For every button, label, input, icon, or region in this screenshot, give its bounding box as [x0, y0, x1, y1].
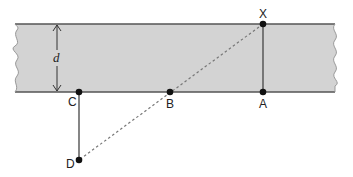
- point-c: [76, 89, 83, 96]
- point-a: [260, 89, 267, 96]
- point-x: [260, 21, 267, 28]
- point-label-b: B: [166, 97, 174, 111]
- point-d: [76, 157, 83, 164]
- point-label-a: A: [259, 97, 267, 111]
- point-label-x: X: [259, 7, 267, 21]
- dimension-label: d: [53, 50, 60, 65]
- diagram-container: d XABCD: [0, 0, 353, 177]
- point-b: [167, 89, 174, 96]
- river-width-diagram: d XABCD: [0, 0, 353, 177]
- point-label-c: C: [68, 95, 77, 109]
- point-label-d: D: [66, 157, 75, 171]
